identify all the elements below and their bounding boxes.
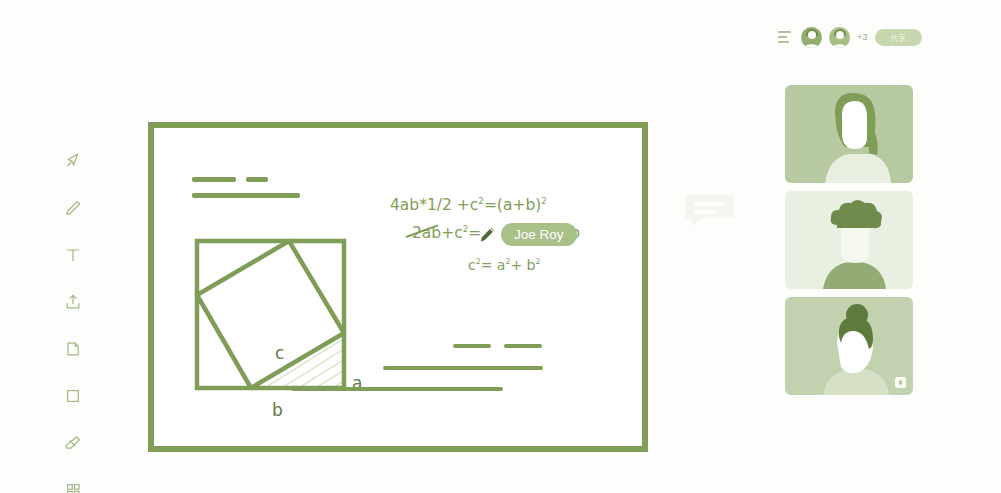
eq2-pre: 2ab+c: [412, 224, 463, 242]
placeholder-bar: [192, 177, 236, 182]
eq3-mid: = a: [481, 257, 506, 273]
placeholder-bar: [192, 193, 300, 198]
eq3-exp3: 2: [536, 257, 541, 266]
eq1-mid: =(a+b): [484, 196, 541, 214]
equation-line-1: 4ab*1/2 +c2=(a+b)2: [390, 196, 547, 214]
chat-bubble-icon[interactable]: [682, 192, 737, 230]
whiteboard-content: c a b 4ab*1/2 +c2=(a+b)2 2ab+c2= b c2= a…: [154, 128, 642, 446]
placeholder-bar: [504, 344, 542, 348]
avatar-head: [808, 31, 816, 39]
avatar-body: [804, 44, 819, 48]
eq1-pre: 4ab*1/2 +c: [390, 196, 478, 214]
video-tile-2[interactable]: [785, 191, 913, 289]
eq3-pre: c: [468, 257, 476, 273]
placeholder-bar: [453, 344, 491, 348]
person-silhouette: [785, 85, 913, 183]
eq3-mid2: + b: [510, 257, 535, 273]
header-toolbar: +3 共享: [778, 24, 938, 50]
geo-label-c: c: [275, 343, 284, 363]
share-button[interactable]: 共享: [875, 29, 922, 46]
remote-cursor: Joe Roy: [477, 223, 577, 246]
tool-rail: [58, 150, 88, 493]
text-icon[interactable]: [62, 244, 84, 266]
geo-label-b: b: [272, 400, 283, 420]
pencil-cursor-icon: [477, 225, 497, 245]
equation-line-3: c2= a2+ b2: [468, 257, 541, 273]
eq1-exp2: 2: [541, 196, 547, 206]
grid-apps-icon[interactable]: [62, 479, 84, 493]
pencil-icon[interactable]: [62, 197, 84, 219]
menu-icon[interactable]: [778, 29, 794, 45]
placeholder-bar: [383, 366, 543, 370]
cursor-select-icon[interactable]: [62, 150, 84, 172]
placeholder-bar: [291, 387, 503, 391]
whiteboard-canvas[interactable]: c a b 4ab*1/2 +c2=(a+b)2 2ab+c2= b c2= a…: [148, 122, 648, 452]
participant-overflow-count[interactable]: +3: [857, 32, 868, 42]
video-tile-3[interactable]: [785, 297, 913, 395]
participant-avatar-1[interactable]: [801, 27, 822, 48]
placeholder-bar: [246, 177, 268, 182]
upload-icon[interactable]: [62, 291, 84, 313]
person-silhouette: [785, 191, 913, 289]
person-silhouette: [785, 297, 913, 395]
participant-avatar-2[interactable]: [829, 27, 850, 48]
pythagoras-diagram: c a b: [189, 233, 369, 427]
whiteboard-app: +3 共享: [0, 0, 1001, 493]
square-shape-icon[interactable]: [62, 385, 84, 407]
avatar-head: [836, 31, 844, 39]
eraser-icon[interactable]: [62, 432, 84, 454]
mic-muted-badge: [895, 377, 906, 388]
video-tile-1[interactable]: [785, 85, 913, 183]
participant-tile-list: [785, 85, 913, 395]
remote-cursor-label: Joe Roy: [501, 223, 577, 246]
sticky-note-icon[interactable]: [62, 338, 84, 360]
avatar-body: [832, 44, 847, 48]
